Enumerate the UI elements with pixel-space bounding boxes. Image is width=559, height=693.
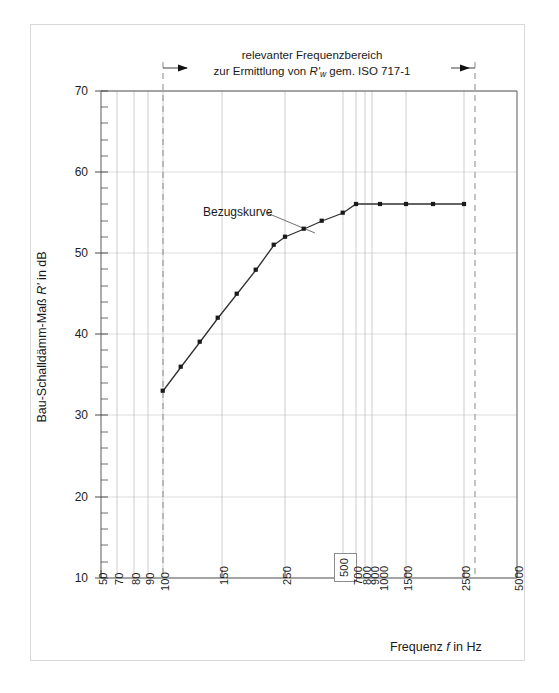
range-arrow-left-icon bbox=[178, 65, 188, 72]
y-tick-label-50: 50 bbox=[58, 246, 88, 261]
annotation-line-2-post: gem. ISO 717-1 bbox=[326, 65, 410, 77]
x-tick-label-80: 80 bbox=[130, 572, 144, 585]
range-arrow-right-icon bbox=[460, 65, 470, 72]
x-tick-label-150: 150 bbox=[218, 566, 232, 585]
figure-container: relevanter Frequenzbereich zur Ermittlun… bbox=[0, 0, 559, 693]
x-tick-label-250: 250 bbox=[281, 566, 295, 585]
annotation-line-2-pre: zur Ermittlung von bbox=[214, 65, 310, 77]
x-tick-label-50: 50 bbox=[97, 572, 111, 585]
y-axis-title-post: in dB bbox=[35, 251, 49, 283]
x-axis-title-pre: Frequenz bbox=[390, 640, 446, 654]
x-tick-label-2500: 2500 bbox=[460, 566, 474, 591]
x-tick-label-1000: 1000 bbox=[378, 566, 392, 591]
y-tick-label-60: 60 bbox=[58, 165, 88, 180]
x-tick-label-1500: 1500 bbox=[402, 566, 416, 591]
x-axis-title-post: in Hz bbox=[450, 640, 482, 654]
annotation-rw-symbol: R' bbox=[309, 65, 320, 77]
y-tick-label-20: 20 bbox=[58, 490, 88, 505]
x-tick-label-100: 100 bbox=[159, 572, 173, 591]
reference-curve-label: Bezugskurve bbox=[203, 205, 272, 219]
x-tick-label-5000: 5000 bbox=[513, 566, 527, 591]
y-axis-title-symbol: R' bbox=[35, 283, 49, 294]
x-tick-label-70: 70 bbox=[113, 572, 127, 585]
y-axis-title-pre: Bau-Schalldämm-Maß bbox=[35, 295, 49, 423]
y-axis-title: Bau-Schalldämm-Maß R' in dB bbox=[35, 217, 49, 457]
annotation-line-2: zur Ermittlung von R'w gem. ISO 717-1 bbox=[188, 64, 436, 80]
chart-canvas bbox=[0, 0, 559, 693]
y-tick-label-70: 70 bbox=[58, 84, 88, 99]
x-tick-label-90: 90 bbox=[144, 572, 158, 585]
x-axis-title: Frequenz f in Hz bbox=[390, 640, 482, 654]
relevant-range-annotation: relevanter Frequenzbereich zur Ermittlun… bbox=[188, 48, 436, 80]
annotation-line-1: relevanter Frequenzbereich bbox=[188, 48, 436, 64]
y-tick-label-30: 30 bbox=[58, 408, 88, 423]
y-tick-label-40: 40 bbox=[58, 327, 88, 342]
y-tick-label-10: 10 bbox=[58, 571, 88, 586]
